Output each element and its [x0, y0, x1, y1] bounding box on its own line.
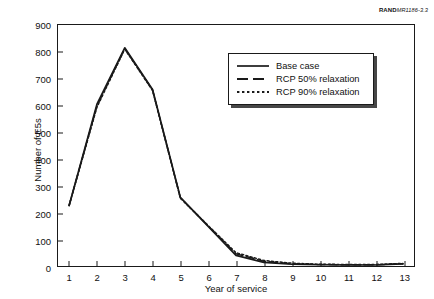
- rand-document-id-prefix: RAND: [379, 7, 397, 13]
- chart-legend: Base case RCP 50% relaxation RCP 90% rel…: [228, 53, 374, 105]
- y-axis-tick-mark: [58, 106, 63, 107]
- x-axis-tick-mark: [181, 261, 182, 266]
- y-axis-tick-label: 400: [35, 155, 58, 166]
- x-axis-tick-label: 6: [206, 266, 211, 283]
- legend-swatch-dotted: [236, 87, 270, 97]
- legend-item: Base case: [236, 59, 366, 72]
- x-axis-tick-label: 7: [234, 266, 239, 283]
- x-axis-tick-mark: [209, 261, 210, 266]
- y-axis-tick-label: 500: [35, 128, 58, 139]
- x-axis-tick-mark: [153, 261, 154, 266]
- x-axis-label: Year of service: [57, 283, 415, 294]
- y-axis-tick-mark: [58, 187, 63, 188]
- y-axis-tick-mark: [58, 160, 63, 161]
- x-axis-tick-label: 10: [316, 266, 327, 283]
- y-axis-tick-mark: [58, 133, 63, 134]
- chart-figure: RANDMR1186-3.3 Number of E5s 01002003004…: [0, 0, 434, 299]
- x-axis-tick-label: 3: [122, 266, 127, 283]
- legend-item: RCP 50% relaxation: [236, 72, 366, 85]
- y-axis-tick-mark: [58, 79, 63, 80]
- x-axis-tick-mark: [97, 261, 98, 266]
- x-axis-tick-label: 8: [262, 266, 267, 283]
- x-axis-tick-label: 1: [67, 266, 72, 283]
- y-axis-tick-mark: [58, 214, 63, 215]
- x-axis-tick-mark: [348, 261, 349, 266]
- x-axis-tick-mark: [125, 261, 126, 266]
- y-axis-tick-label: 0: [46, 263, 58, 274]
- x-axis-tick-label: 13: [400, 266, 411, 283]
- x-axis-tick-mark: [376, 261, 377, 266]
- x-axis-tick-mark: [404, 261, 405, 266]
- legend-label-rcp-50: RCP 50% relaxation: [276, 74, 360, 84]
- x-axis-tick-mark: [69, 261, 70, 266]
- y-axis-tick-mark: [58, 241, 63, 242]
- legend-swatch-dashed: [236, 74, 270, 84]
- y-axis-tick-label: 700: [35, 74, 58, 85]
- x-axis-tick-mark: [320, 261, 321, 266]
- legend-swatch-solid: [236, 61, 270, 71]
- legend-item: RCP 90% relaxation: [236, 85, 366, 98]
- y-axis-tick-label: 100: [35, 236, 58, 247]
- y-axis-tick-label: 800: [35, 47, 58, 58]
- legend-label-base-case: Base case: [276, 61, 319, 71]
- x-axis-tick-mark: [292, 261, 293, 266]
- y-axis-tick-label: 600: [35, 101, 58, 112]
- rand-document-id-number: MR1186-3.3: [397, 7, 428, 13]
- x-axis-tick-label: 2: [95, 266, 100, 283]
- x-axis-tick-label: 4: [150, 266, 155, 283]
- x-axis-tick-label: 5: [178, 266, 183, 283]
- y-axis-tick-label: 200: [35, 209, 58, 220]
- x-axis-tick-mark: [237, 261, 238, 266]
- y-axis-tick-label: 300: [35, 182, 58, 193]
- rand-document-id: RANDMR1186-3.3: [379, 7, 428, 13]
- y-axis-tick-mark: [58, 52, 63, 53]
- x-axis-tick-label: 11: [344, 266, 354, 283]
- x-axis-tick-mark: [264, 261, 265, 266]
- legend-label-rcp-90: RCP 90% relaxation: [276, 87, 360, 97]
- y-axis-tick-label: 900: [35, 20, 58, 31]
- x-axis-tick-label: 12: [372, 266, 383, 283]
- x-axis-tick-label: 9: [290, 266, 295, 283]
